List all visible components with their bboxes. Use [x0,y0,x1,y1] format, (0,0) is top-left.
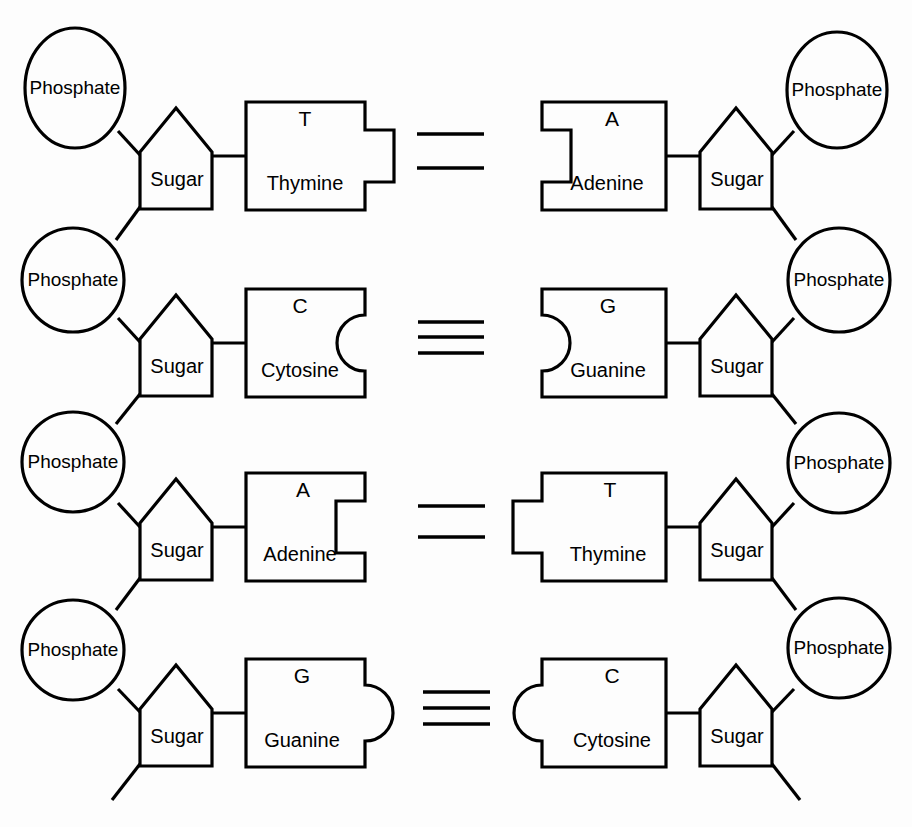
hydrogen-bonds-2 [418,322,484,353]
rung-4: Phosphate Sugar G Guanine C Cyto [22,598,890,767]
phosphate-left-4: Phosphate [22,600,124,700]
sugar-right-4: Sugar [700,665,772,766]
phosphate-label: Phosphate [28,269,119,290]
phosphate-right-4: Phosphate [788,598,890,698]
phosphate-left-2: Phosphate [22,228,124,332]
base-letter: T [299,107,312,130]
base-right-1-adenine: A Adenine [542,102,666,210]
phosphate-label: Phosphate [794,637,885,658]
base-name: Adenine [570,172,643,194]
phosphate-left-3: Phosphate [22,412,124,512]
phosphate-label: Phosphate [794,269,885,290]
dna-diagram: Phosphate Sugar T Thymine A [0,0,912,827]
phosphate-right-1: Phosphate [787,32,887,148]
phosphate-left-1: Phosphate [25,28,125,148]
rung-3: Phosphate Sugar A Adenine T Thymine [22,412,890,581]
sugar-label: Sugar [150,725,204,747]
base-name: Thymine [570,543,647,565]
phosphate-label: Phosphate [28,639,119,660]
base-letter: A [296,478,310,501]
base-letter: A [605,107,619,130]
rung-2: Phosphate Sugar C Cytosine G [22,228,890,397]
base-name: Cytosine [261,359,339,381]
phosphate-label: Phosphate [792,79,883,100]
hydrogen-bonds-4 [423,692,490,724]
rung-1: Phosphate Sugar T Thymine A [25,28,887,210]
base-name: Cytosine [573,729,651,751]
base-name: Guanine [264,729,340,751]
phosphate-label: Phosphate [30,77,121,98]
sugar-label: Sugar [710,168,764,190]
base-letter: C [292,294,307,317]
base-left-2-cytosine: C Cytosine [246,289,365,397]
hydrogen-bonds-1 [417,134,484,168]
base-left-3-adenine: A Adenine [246,473,365,581]
sugar-label: Sugar [150,168,204,190]
base-right-4-cytosine: C Cytosine [514,659,666,767]
sugar-label: Sugar [150,539,204,561]
base-right-3-thymine: T Thymine [513,473,666,581]
base-letter: T [604,478,617,501]
phosphate-label: Phosphate [794,452,885,473]
base-letter: C [604,664,619,687]
hydrogen-bonds-3 [418,506,485,537]
base-right-2-guanine: G Guanine [542,289,666,397]
phosphate-right-3: Phosphate [788,413,890,513]
sugar-left-2: Sugar [140,295,212,396]
base-name: Thymine [267,172,344,194]
left-strand-tail [112,764,140,800]
sugar-right-1: Sugar [700,108,772,209]
sugar-right-2: Sugar [700,295,772,396]
sugar-label: Sugar [710,539,764,561]
base-name: Adenine [263,543,336,565]
base-letter: G [294,664,310,687]
phosphate-label: Phosphate [28,451,119,472]
base-left-4-guanine: G Guanine [246,659,393,767]
right-strand-tail [772,764,800,800]
sugar-left-1: Sugar [140,108,212,209]
sugar-label: Sugar [710,355,764,377]
phosphate-right-2: Phosphate [788,228,890,332]
sugar-label: Sugar [150,355,204,377]
sugar-left-4: Sugar [140,665,212,766]
dna-diagram-canvas: Phosphate Sugar T Thymine A [0,0,912,827]
base-name: Guanine [570,359,646,381]
sugar-right-3: Sugar [700,479,772,580]
sugar-left-3: Sugar [140,479,212,580]
sugar-label: Sugar [710,725,764,747]
sugar-base-linkers [212,156,700,713]
base-letter: G [600,294,616,317]
base-left-1-thymine: T Thymine [246,102,394,210]
